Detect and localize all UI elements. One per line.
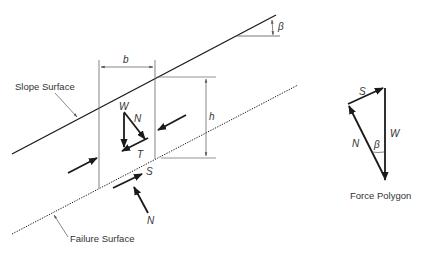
base-normal-arrow	[134, 187, 148, 213]
slice-force-triangle: W N T	[119, 101, 148, 160]
weight-label: W	[119, 101, 130, 112]
right-side-force-arrow	[158, 115, 186, 130]
tangential-arrow	[122, 138, 148, 151]
normal-label: N	[134, 113, 142, 124]
slope-angle-indicator: β	[236, 20, 284, 36]
polygon-weight-label: W	[390, 128, 401, 139]
base-shear-arrow	[113, 174, 142, 188]
width-dimension: b	[101, 54, 153, 67]
left-side-force-arrow	[68, 158, 97, 173]
base-forces: S N	[113, 166, 155, 226]
base-shear-label: S	[146, 166, 153, 177]
slope-surface-label: Slope Surface	[15, 81, 75, 92]
height-label-h: h	[209, 111, 215, 122]
failure-surface-leader	[54, 215, 68, 237]
force-polygon-caption: Force Polygon	[350, 190, 411, 201]
angle-beta-label: β	[277, 21, 284, 32]
base-normal-label: N	[147, 215, 155, 226]
height-dimension: h	[157, 77, 216, 158]
failure-surface-label: Failure Surface	[70, 233, 134, 244]
polygon-angle-label: β	[373, 139, 380, 150]
force-polygon: S W N β Force Polygon	[348, 86, 411, 201]
polygon-normal-label: N	[352, 138, 360, 149]
polygon-angle-arc	[372, 152, 384, 153]
width-label-b: b	[123, 54, 129, 65]
slope-surface-leader	[55, 93, 77, 117]
infinite-slope-diagram: β b h Slope Surface Failure Surface W N …	[0, 0, 433, 257]
tangential-label: T	[137, 149, 144, 160]
polygon-shear-label: S	[359, 86, 366, 97]
